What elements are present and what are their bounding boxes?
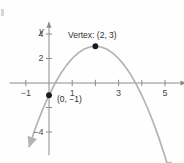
y-intercept-point [46,92,52,98]
coordinate-plane-plot [0,0,184,163]
x-tick-label-0: −1 [21,89,31,98]
y-tick-label-0: 4 [38,30,43,39]
parabola-curve [29,46,169,163]
parabola-figure: y x Vertex: (2, 3) (0, −1) −113542−4 [0,0,184,163]
x-tick-label-1: 1 [70,89,75,98]
x-tick-label-3: 5 [162,89,167,98]
x-tick-label-2: 3 [116,89,121,98]
y-tick-label-2: −4 [33,128,43,137]
vertex-point [93,43,99,49]
vertex-annotation: Vertex: (2, 3) [68,31,117,40]
y-tick-label-1: 2 [38,54,43,63]
